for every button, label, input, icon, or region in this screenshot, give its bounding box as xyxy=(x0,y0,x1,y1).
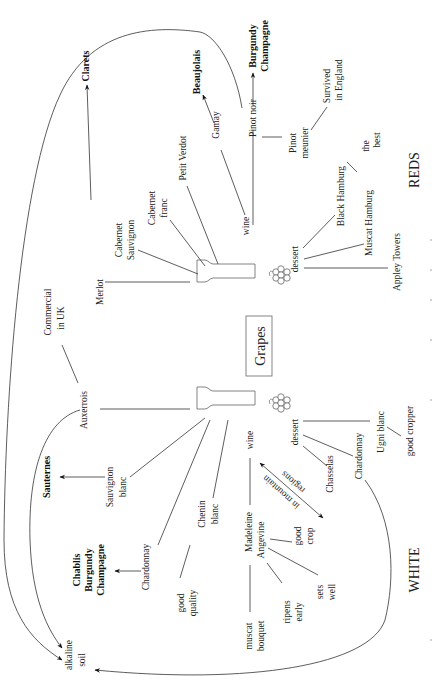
section-label-white: WHITE xyxy=(407,547,422,592)
label-survived-2: in England xyxy=(334,59,344,101)
label-pinot-noir: Pinot noir xyxy=(248,98,258,137)
label-good-cropper: good cropper xyxy=(405,405,415,456)
label-cab-franc-1: Cabernet xyxy=(147,190,157,225)
label-madeleine-1: Madeleine xyxy=(244,512,254,552)
line-chasselas xyxy=(303,446,327,466)
line-good-cropper xyxy=(387,427,401,436)
red-grape-bunch-icon xyxy=(269,266,290,284)
label-appley-towers: Appley Towers xyxy=(392,233,402,291)
line-good-crop xyxy=(270,539,292,542)
label-petit-verdot: Petit Verdot xyxy=(178,135,188,180)
label-beaujolais: Beaujolais xyxy=(191,50,202,95)
arrow-clarets xyxy=(87,85,91,200)
red-wine-bottle-icon xyxy=(197,260,255,282)
label-white-chardonnay: Chardonnay xyxy=(141,544,151,591)
line-gamay xyxy=(221,150,245,215)
section-label-reds: REDS xyxy=(407,152,422,188)
grapes-label: Grapes xyxy=(253,326,268,366)
label-muscat-1: muscat xyxy=(244,622,254,649)
label-survived-1: Survived xyxy=(322,69,332,104)
label-the-best-2: best xyxy=(372,132,382,148)
curve-auxerrois-to-soil xyxy=(30,410,80,648)
line-chenin xyxy=(213,420,228,498)
label-red-wine: wine xyxy=(241,217,251,235)
label-pinot-meunier-1: Pinot xyxy=(288,133,298,153)
curve-chardonnay-to-soil xyxy=(95,480,391,675)
label-good-quality-1: good xyxy=(176,593,186,612)
label-muscat-2: bouquet xyxy=(256,620,266,651)
label-cab-sauv-1: Cabernet xyxy=(114,222,124,257)
label-white-champagne: Champagne xyxy=(95,544,106,596)
label-sets-well-1: sets xyxy=(315,585,325,600)
label-ripens-1: ripens xyxy=(282,600,292,624)
label-gamay: Gamay xyxy=(211,111,221,139)
line-black-hamburg xyxy=(303,215,335,248)
label-chenin-1: Chenin xyxy=(197,500,207,528)
label-commercial-1: Commercial xyxy=(43,288,53,335)
label-sauv-blanc-1: Sauvignon xyxy=(105,466,115,507)
label-ugni-blanc: Ugni blanc xyxy=(376,411,386,453)
label-red-dessert: dessert xyxy=(290,245,300,272)
line-the-best xyxy=(347,162,357,172)
label-pinot-meunier-2: meunier xyxy=(300,127,310,159)
line-sauv-blanc xyxy=(130,418,205,477)
line-commercial xyxy=(62,345,78,383)
label-red-burgundy: Burgundy xyxy=(247,24,258,67)
label-cab-franc-2: franc xyxy=(159,198,169,218)
label-madeleine-2: Angevine xyxy=(256,522,266,559)
line-white-chardonnay-dessert xyxy=(303,435,353,456)
label-the-best-1: the xyxy=(361,140,371,152)
label-ripens-2: early xyxy=(294,602,304,621)
label-white-burgundy: Burgundy xyxy=(83,548,94,591)
line-cab-franc xyxy=(170,220,205,266)
line-cab-sauv xyxy=(138,250,198,274)
curve-pinot-to-soil xyxy=(4,30,242,660)
line-muscat-hamburg xyxy=(304,244,364,259)
label-alkaline: alkaline xyxy=(64,640,74,670)
label-sets-well-2: well xyxy=(327,583,337,600)
label-dessert-chardonnay: Chardonnay xyxy=(354,433,364,480)
line-sets-well xyxy=(268,548,318,575)
white-wine-bottle-icon xyxy=(197,387,255,409)
line-petit-verdot xyxy=(187,186,218,264)
label-good-crop-2: crop xyxy=(305,527,315,544)
label-soil: soil xyxy=(77,653,87,667)
line-survived xyxy=(311,107,327,130)
label-white-dessert: dessert xyxy=(290,418,300,445)
label-sauv-blanc-2: blanc xyxy=(118,477,128,498)
label-good-crop-1: good xyxy=(293,526,303,545)
label-muscat-hamburg: Muscat Hamburg xyxy=(364,190,374,256)
label-chasselas: Chasselas xyxy=(325,455,335,493)
white-grape-bunch-icon xyxy=(269,394,290,412)
line-ripens-early xyxy=(267,563,282,583)
label-clarets: Clarets xyxy=(80,50,91,81)
label-cab-sauv-2: Sauvignon xyxy=(126,219,136,260)
label-white-wine: wine xyxy=(245,431,255,449)
label-merlot: Merlot xyxy=(95,279,105,305)
line-good-quality xyxy=(180,545,190,578)
label-sauternes: Sauternes xyxy=(41,456,52,498)
label-chablis: Chablis xyxy=(71,553,82,586)
grapes-mind-map: Grapes Merlot Cabernet Sauvignon Caberne… xyxy=(0,0,437,683)
label-good-quality-2: quality xyxy=(188,590,198,617)
margin-dots xyxy=(430,239,432,641)
label-red-champagne: Champagne xyxy=(259,20,270,72)
label-auxerrois: Auxerrois xyxy=(79,391,89,429)
label-commercial-2: in UK xyxy=(56,306,66,330)
arrow-mountain-regions xyxy=(260,463,323,518)
label-black-hamburg: Black Hamburg xyxy=(336,166,346,226)
label-chenin-2: blanc xyxy=(210,504,220,525)
